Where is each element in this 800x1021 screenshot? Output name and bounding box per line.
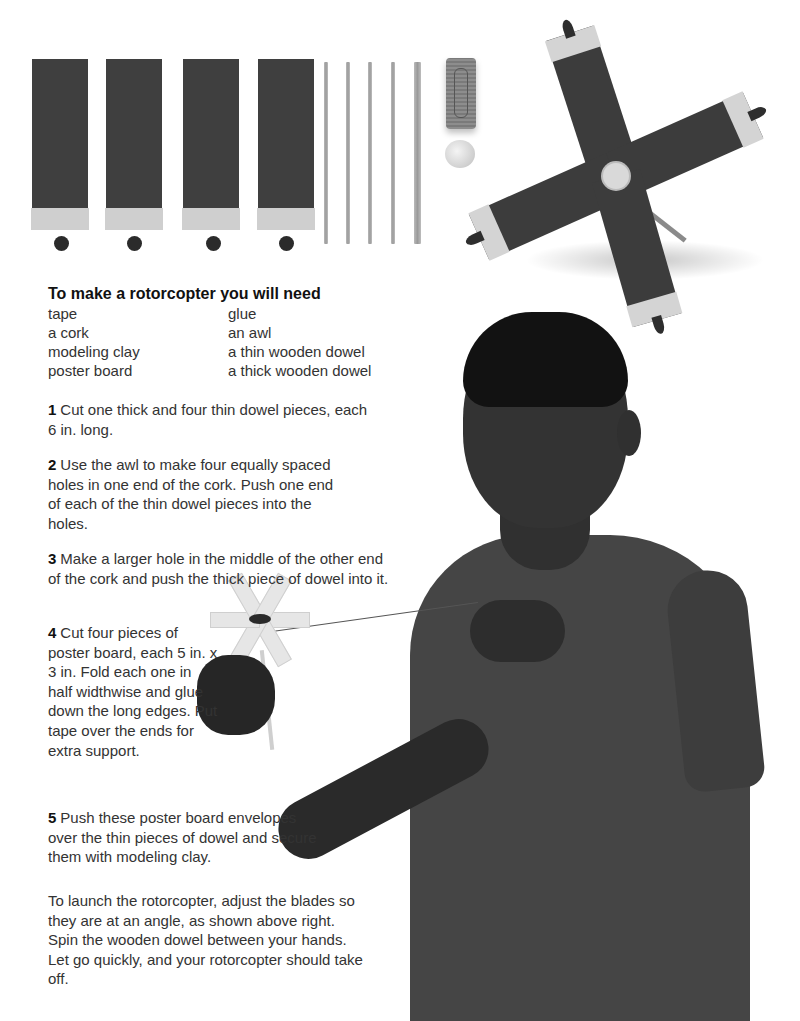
material-item: modeling clay bbox=[48, 342, 228, 361]
step-2: 2Use the awl to make four equally spaced… bbox=[48, 455, 348, 533]
step-text: Push these poster board envelopes over t… bbox=[48, 809, 317, 865]
step-5: 5Push these poster board envelopes over … bbox=[48, 808, 328, 867]
clay-ball bbox=[206, 236, 221, 251]
thin-dowel bbox=[324, 62, 328, 244]
material-item: tape bbox=[48, 304, 228, 323]
step-text: Cut four pieces of poster board, each 5 … bbox=[48, 624, 217, 759]
tape-strip bbox=[257, 208, 315, 230]
tape-strip bbox=[31, 208, 89, 230]
materials-photo bbox=[0, 0, 470, 270]
step-text: Cut one thick and four thin dowel pieces… bbox=[48, 401, 367, 438]
materials-grid: tape glue a cork an awl modeling clay a … bbox=[48, 304, 408, 380]
ear bbox=[617, 410, 641, 456]
material-item: an awl bbox=[228, 323, 408, 342]
material-item: a thick wooden dowel bbox=[228, 361, 408, 380]
clay-ball bbox=[54, 236, 69, 251]
poster-board-card bbox=[258, 59, 314, 230]
step-1: 1Cut one thick and four thin dowel piece… bbox=[48, 400, 368, 439]
material-item: a thin wooden dowel bbox=[228, 342, 408, 361]
toy-rotor bbox=[205, 600, 315, 640]
step-text: Use the awl to make four equally spaced … bbox=[48, 456, 333, 532]
materials-list: To make a rotorcopter you will need tape… bbox=[48, 284, 408, 380]
step-text: Make a larger hole in the middle of the … bbox=[48, 550, 388, 587]
material-item: poster board bbox=[48, 361, 228, 380]
tape-strip bbox=[182, 208, 240, 230]
blade-tape bbox=[722, 91, 763, 147]
step-number: 5 bbox=[48, 809, 56, 826]
tape-strip bbox=[105, 208, 163, 230]
materials-heading: To make a rotorcopter you will need bbox=[48, 284, 408, 304]
material-item: a cork bbox=[48, 323, 228, 342]
poster-board-card bbox=[106, 59, 162, 230]
step-3: 3Make a larger hole in the middle of the… bbox=[48, 549, 398, 588]
poster-board-card bbox=[32, 59, 88, 230]
launch-instructions: To launch the rotorcopter, adjust the bl… bbox=[48, 891, 368, 989]
clay-ball bbox=[127, 236, 142, 251]
material-item: glue bbox=[228, 304, 408, 323]
thin-dowel bbox=[391, 62, 395, 244]
thick-dowel bbox=[414, 62, 421, 244]
blade-dowel-tip bbox=[747, 105, 768, 121]
toy-hub bbox=[249, 614, 271, 624]
step-number: 1 bbox=[48, 401, 56, 418]
step-number: 3 bbox=[48, 550, 56, 567]
step-number: 4 bbox=[48, 624, 56, 641]
right-hand bbox=[470, 600, 565, 662]
clay-ball bbox=[279, 236, 294, 251]
thin-dowel bbox=[368, 62, 372, 244]
hair bbox=[463, 312, 628, 407]
poster-board-card bbox=[183, 59, 239, 230]
thin-dowel bbox=[346, 62, 350, 244]
step-number: 2 bbox=[48, 456, 56, 473]
step-4: 4Cut four pieces of poster board, each 5… bbox=[48, 623, 218, 760]
cork-hub bbox=[603, 163, 629, 189]
